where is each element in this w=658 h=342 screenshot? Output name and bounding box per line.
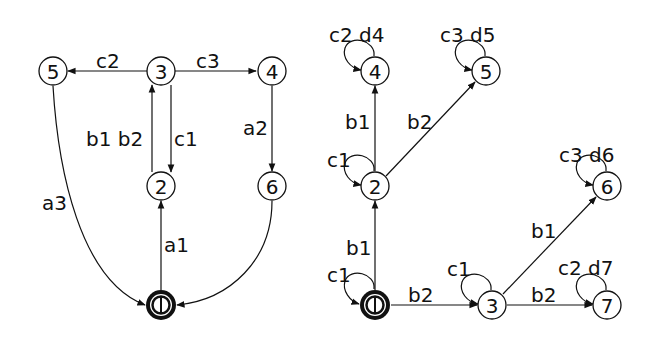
edge-label-b1-b2: b1 b2 [86, 127, 143, 151]
svg-text:7: 7 [601, 294, 614, 318]
edge-label-a3: a3 [42, 191, 67, 215]
accepting-state-node-0 [360, 290, 390, 320]
edge-label-b2-3-7: b2 [531, 283, 556, 307]
svg-text:4: 4 [369, 60, 382, 84]
svg-text:2: 2 [369, 175, 382, 199]
state-node-2: 2 [147, 172, 175, 200]
edge-label-a1: a1 [164, 233, 189, 257]
edge-label-c2: c2 [96, 49, 120, 73]
edge-label-a2: a2 [243, 116, 268, 140]
edge-label-c1-0: c1 [327, 263, 351, 287]
state-node-3: 3 [147, 57, 175, 85]
edge-label-c1-3: c1 [447, 257, 471, 281]
edge-label-c3: c3 [196, 49, 220, 73]
edge-label-b1-3-6: b1 [531, 219, 556, 243]
state-node-2: 2 [361, 172, 389, 200]
svg-text:2: 2 [155, 175, 168, 199]
state-node-4: 4 [361, 57, 389, 85]
edge-label-b1-0-2: b1 [346, 236, 371, 260]
edge-label-c3-d5: c3 d5 [440, 23, 496, 47]
edge-label-b1-2-4: b1 [345, 110, 370, 134]
state-node-5: 5 [39, 57, 67, 85]
state-node-4: 4 [258, 57, 286, 85]
edge-label-b2-0-3: b2 [408, 283, 433, 307]
automata-diagram: c2 c3 b1 b2 c1 a2 a1 a3 5 3 4 2 6 [0, 0, 658, 342]
state-node-3: 3 [478, 291, 506, 319]
svg-text:5: 5 [480, 60, 493, 84]
edge-label-b2-2-5: b2 [407, 110, 432, 134]
state-node-6: 6 [593, 172, 621, 200]
edge-6-to-0 [177, 201, 272, 305]
edge-label-c1-2: c1 [327, 148, 351, 172]
left-automaton: c2 c3 b1 b2 c1 a2 a1 a3 5 3 4 2 6 [39, 49, 286, 320]
svg-text:5: 5 [47, 60, 60, 84]
state-node-6: 6 [258, 172, 286, 200]
edge-label-c2-d7: c2 d7 [558, 256, 614, 280]
state-node-5: 5 [472, 57, 500, 85]
edge-label-c1: c1 [174, 127, 198, 151]
svg-text:4: 4 [266, 60, 279, 84]
edge-label-c2-d4: c2 d4 [329, 23, 385, 47]
svg-text:3: 3 [486, 294, 499, 318]
svg-text:6: 6 [266, 175, 279, 199]
svg-text:3: 3 [155, 60, 168, 84]
edge-label-c3-d6: c3 d6 [559, 143, 615, 167]
accepting-state-node-0 [146, 290, 176, 320]
state-node-7: 7 [593, 291, 621, 319]
right-automaton: c2 d4 c3 d5 b1 b2 c1 c3 d6 b1 c1 b2 c1 b… [327, 23, 621, 320]
svg-text:6: 6 [601, 175, 614, 199]
